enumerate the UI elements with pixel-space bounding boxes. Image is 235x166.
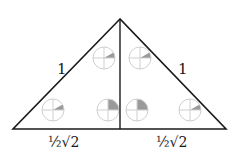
- angle-marker-top-right: [129, 47, 151, 69]
- angle-sector: [190, 105, 201, 111]
- angle-sector: [53, 105, 64, 111]
- left-base-label: ½√2: [48, 134, 79, 150]
- angle-markers: [42, 47, 201, 121]
- left-hypotenuse-label: 1: [57, 60, 67, 78]
- angle-sector: [140, 53, 151, 59]
- right-hypotenuse-label: 1: [178, 60, 188, 78]
- triangle-diagram: 1 1 ½√2 ½√2: [0, 0, 235, 166]
- angle-marker-bottom-left: [42, 99, 64, 121]
- right-base-label: ½√2: [156, 134, 187, 150]
- angle-marker-top-left: [93, 47, 115, 69]
- angle-marker-bottom-inner-right: [126, 99, 148, 121]
- angle-marker-bottom-right: [179, 99, 201, 121]
- angle-sector: [104, 53, 115, 59]
- angle-marker-bottom-inner-left: [97, 99, 119, 121]
